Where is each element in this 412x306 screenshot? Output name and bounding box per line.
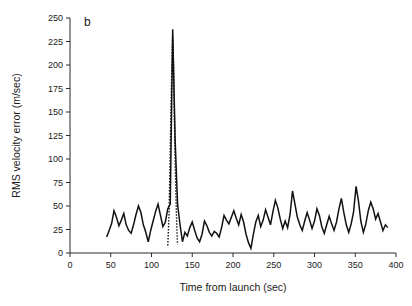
x-axis-ticks: [70, 253, 396, 257]
figure-panel-b: 0255075100125150175200225250 05010015020…: [0, 0, 412, 306]
plot-axes: [66, 18, 396, 257]
y-axis-tick-labels: 0255075100125150175200225250: [48, 13, 63, 258]
y-axis-ticks: [66, 18, 70, 253]
y-tick-label: 250: [48, 13, 63, 23]
y-tick-label: 75: [53, 178, 63, 188]
plot-tick-labels: 0255075100125150175200225250 05010015020…: [48, 13, 404, 270]
panel-label: b: [84, 15, 91, 29]
y-tick-label: 175: [48, 84, 63, 94]
x-tick-label: 200: [225, 260, 240, 270]
x-tick-label: 400: [388, 260, 403, 270]
y-tick-label: 150: [48, 107, 63, 117]
x-tick-label: 300: [307, 260, 322, 270]
y-tick-label: 200: [48, 60, 63, 70]
x-tick-label: 50: [106, 260, 116, 270]
y-tick-label: 0: [58, 248, 63, 258]
x-tick-label: 150: [185, 260, 200, 270]
x-tick-label: 0: [67, 260, 72, 270]
x-tick-label: 350: [348, 260, 363, 270]
rms-velocity-error-chart: 0255075100125150175200225250 05010015020…: [0, 0, 412, 306]
y-tick-label: 100: [48, 154, 63, 164]
y-tick-label: 25: [53, 225, 63, 235]
x-tick-label: 250: [266, 260, 281, 270]
x-tick-label: 100: [144, 260, 159, 270]
series-line-solid: [107, 29, 388, 248]
y-axis-title: RMS velocity error (m/sec): [10, 73, 22, 197]
y-tick-label: 125: [48, 131, 63, 141]
plot-series: [107, 29, 388, 248]
x-axis-title: Time from launch (sec): [180, 281, 287, 293]
y-tick-label: 225: [48, 37, 63, 47]
x-axis-tick-labels: 050100150200250300350400: [67, 260, 403, 270]
y-tick-label: 50: [53, 201, 63, 211]
